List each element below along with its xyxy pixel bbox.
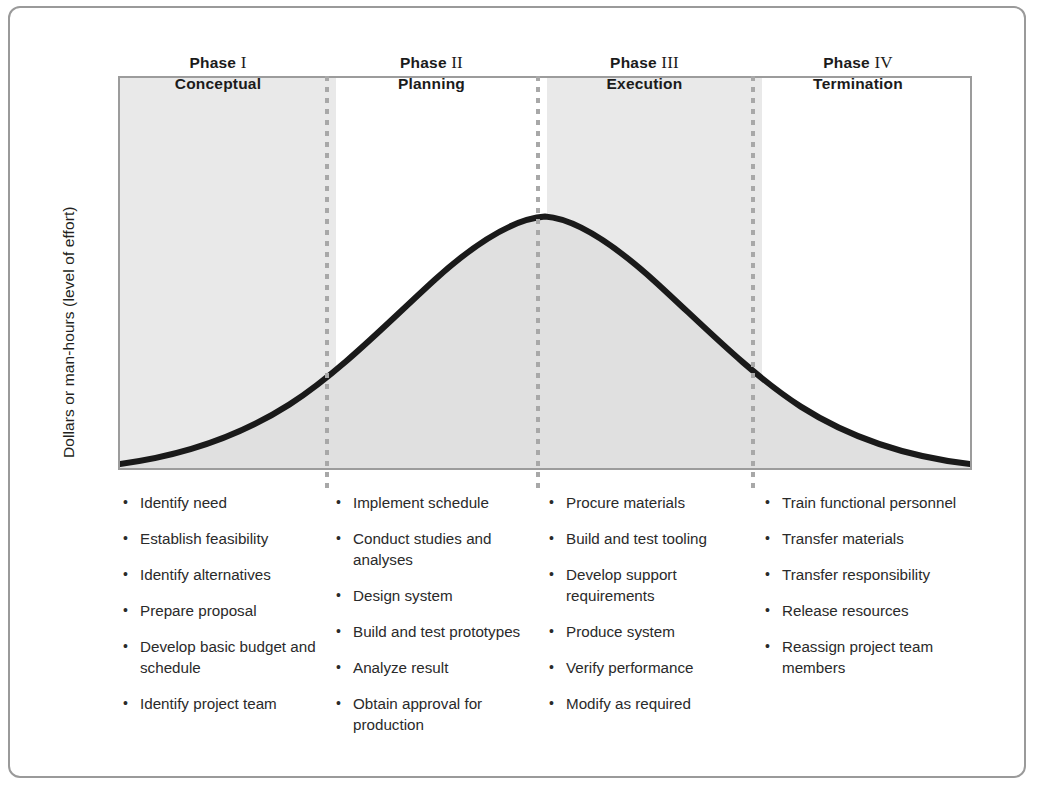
phase-heading-3: Phase III Execution <box>537 52 752 94</box>
task-list-3: Procure materials Build and test tooling… <box>549 492 739 714</box>
phase-heading-name-3: Execution <box>607 75 683 92</box>
list-item: Develop basic budget and schedule <box>123 636 319 678</box>
task-list-phase-4: Train functional personnel Transfer mate… <box>765 492 975 693</box>
list-item: Train functional personnel <box>765 492 975 513</box>
phase-heading-numeral-2: II <box>451 53 463 72</box>
phase-heading-label-2: Phase <box>400 54 447 71</box>
phase-heading-2: Phase II Planning <box>326 52 537 94</box>
task-list-2: Implement schedule Conduct studies and a… <box>336 492 528 735</box>
list-item: Procure materials <box>549 492 739 513</box>
figure-frame: Dollars or man-hours (level of effort) P… <box>8 6 1026 778</box>
list-item: Verify performance <box>549 657 739 678</box>
phase-heading-name-4: Termination <box>813 75 903 92</box>
phase-heading-numeral-1: I <box>241 53 247 72</box>
list-item: Build and test tooling <box>549 528 739 549</box>
list-item: Obtain approval for production <box>336 693 528 735</box>
list-item: Produce system <box>549 621 739 642</box>
list-item: Modify as required <box>549 693 739 714</box>
level-of-effort-curve <box>120 78 970 468</box>
list-item: Conduct studies and analyses <box>336 528 528 570</box>
phase-heading-label-1: Phase <box>189 54 236 71</box>
phase-divider-3 <box>751 76 755 494</box>
task-list-phase-3: Procure materials Build and test tooling… <box>549 492 739 729</box>
list-item: Develop support requirements <box>549 564 739 606</box>
list-item: Prepare proposal <box>123 600 319 621</box>
list-item: Identify alternatives <box>123 564 319 585</box>
list-item: Release resources <box>765 600 975 621</box>
phase-heading-numeral-3: III <box>661 53 679 72</box>
list-item: Design system <box>336 585 528 606</box>
effort-curve-plot <box>118 76 972 470</box>
phase-heading-label-4: Phase <box>823 54 870 71</box>
phase-heading-numeral-4: IV <box>874 53 892 72</box>
list-item: Identify project team <box>123 693 319 714</box>
phase-divider-2 <box>536 76 540 494</box>
list-item: Analyze result <box>336 657 528 678</box>
list-item: Reassign project team members <box>765 636 975 678</box>
task-list-phase-2: Implement schedule Conduct studies and a… <box>336 492 528 750</box>
task-list-4: Train functional personnel Transfer mate… <box>765 492 975 678</box>
phase-heading-1: Phase I Conceptual <box>110 52 326 94</box>
list-item: Establish feasibility <box>123 528 319 549</box>
phase-heading-name-1: Conceptual <box>175 75 261 92</box>
phase-heading-name-2: Planning <box>398 75 465 92</box>
phase-heading-label-3: Phase <box>610 54 657 71</box>
list-item: Transfer materials <box>765 528 975 549</box>
task-list-1: Identify need Establish feasibility Iden… <box>123 492 319 714</box>
phase-divider-1 <box>325 76 329 494</box>
list-item: Identify need <box>123 492 319 513</box>
task-list-phase-1: Identify need Establish feasibility Iden… <box>123 492 319 729</box>
y-axis-label: Dollars or man-hours (level of effort) <box>58 78 80 458</box>
phase-heading-4: Phase IV Termination <box>752 52 964 94</box>
list-item: Transfer responsibility <box>765 564 975 585</box>
list-item: Build and test prototypes <box>336 621 528 642</box>
list-item: Implement schedule <box>336 492 528 513</box>
